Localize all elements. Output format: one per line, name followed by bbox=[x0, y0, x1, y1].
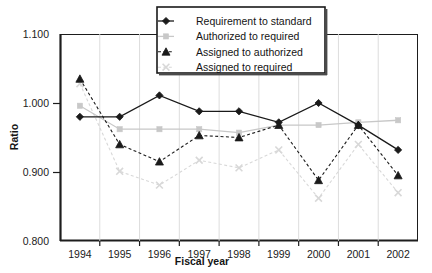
series-1-pt-1-marker-square bbox=[117, 127, 122, 132]
legend-1-marker-square bbox=[163, 34, 168, 39]
x-tick-label-2002: 2002 bbox=[386, 248, 410, 260]
chart-container: 1.100 1.000 0.900 0.800 1994199519961997… bbox=[0, 0, 432, 273]
y-axis-title: Ratio bbox=[8, 124, 20, 150]
x-tick-label-1996: 1996 bbox=[148, 248, 172, 260]
x-tick-label-2000: 2000 bbox=[307, 248, 331, 260]
chart-legend: Requirement to standardAuthorized to req… bbox=[157, 7, 327, 75]
series-1-pt-2-marker-square bbox=[157, 127, 162, 132]
legend-label-3: Assigned to required bbox=[196, 61, 292, 73]
x-tick-label-2001: 2001 bbox=[347, 248, 371, 260]
legend-box-shadow-bottom bbox=[159, 73, 327, 75]
x-tick-label-1994: 1994 bbox=[68, 248, 92, 260]
x-axis-title: Fiscal year bbox=[175, 255, 229, 267]
series-1-pt-8-marker-square bbox=[396, 118, 401, 123]
y-tick-label-3: 0.800 bbox=[23, 235, 49, 247]
y-tick-label-1: 1.000 bbox=[23, 97, 49, 109]
x-tick-label-1998: 1998 bbox=[227, 248, 251, 260]
y-tick-label-2: 0.900 bbox=[23, 166, 49, 178]
y-tick-label-0: 1.100 bbox=[23, 28, 49, 40]
legend-box-shadow-right bbox=[325, 9, 327, 75]
legend-label-2: Assigned to authorized bbox=[196, 46, 303, 58]
line-chart: 1.100 1.000 0.900 0.800 1994199519961997… bbox=[0, 0, 432, 273]
legend-label-1: Authorized to required bbox=[196, 30, 299, 42]
x-tick-label-1995: 1995 bbox=[108, 248, 132, 260]
series-1-pt-0-marker-square bbox=[77, 103, 82, 108]
series-1-pt-6-marker-square bbox=[316, 122, 321, 127]
legend-label-0: Requirement to standard bbox=[196, 15, 312, 27]
x-axis-tick-labels: 199419951996199719981999200020012002 bbox=[68, 248, 410, 260]
x-tick-label-1999: 1999 bbox=[267, 248, 291, 260]
